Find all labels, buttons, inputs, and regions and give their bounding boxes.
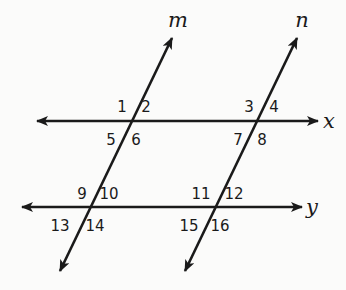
angle-label-10: 10 (99, 185, 118, 203)
angle-label-3: 3 (244, 98, 254, 116)
angle-numbers-group: 12345678910111213141516 (50, 98, 278, 235)
lines-group (22, 38, 318, 271)
line-label-n: n (295, 8, 309, 32)
line-label-m: m (168, 8, 188, 32)
angle-label-12: 12 (224, 185, 243, 203)
line-n (185, 38, 297, 271)
parallel-lines-transversals-diagram: xymn 12345678910111213141516 (0, 0, 346, 290)
angle-label-9: 9 (77, 185, 87, 203)
angle-label-8: 8 (257, 131, 267, 149)
angle-label-16: 16 (210, 217, 229, 235)
angle-label-1: 1 (117, 98, 127, 116)
angle-label-11: 11 (191, 185, 210, 203)
angle-label-15: 15 (179, 217, 198, 235)
angle-label-7: 7 (233, 131, 243, 149)
line-label-x: x (323, 109, 335, 133)
angle-label-14: 14 (85, 217, 104, 235)
angle-label-2: 2 (141, 98, 151, 116)
line-m (60, 38, 172, 271)
angle-label-5: 5 (106, 131, 116, 149)
angle-label-6: 6 (131, 131, 141, 149)
line-label-y: y (305, 195, 319, 219)
angle-label-13: 13 (50, 217, 69, 235)
angle-label-4: 4 (269, 98, 279, 116)
